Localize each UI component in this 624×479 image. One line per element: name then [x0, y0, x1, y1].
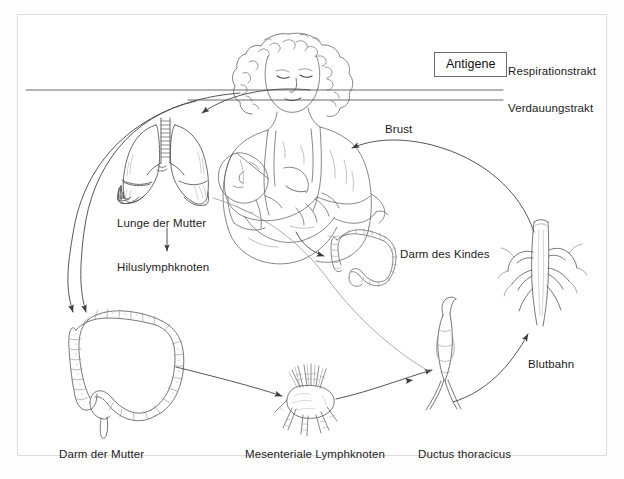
guide-line-lower-right-continued [330, 282, 430, 372]
figure-canvas: Antigene Respirationstrakt Verdauungstra… [0, 0, 624, 479]
arrow-digestive-to-maternal-gut [81, 101, 196, 312]
blood-vessel-illustration [498, 220, 587, 326]
label-darm-der-mutter: Darm der Mutter [59, 449, 144, 461]
label-respirationstrakt: Respirationstrakt [508, 66, 596, 78]
label-lunge-der-mutter: Lunge der Mutter [117, 218, 206, 230]
label-blutbahn: Blutbahn [528, 359, 574, 371]
infant-large-intestine-illustration [331, 229, 397, 286]
arrow-gut-to-mesenteric-node [176, 367, 282, 396]
label-ductus-thoracicus: Ductus thoracicus [418, 449, 511, 461]
arrow-duct-to-bloodstream [453, 334, 528, 402]
label-brust: Brust [385, 124, 412, 136]
label-darm-des-kindes: Darm des Kindes [400, 249, 490, 261]
mother-breastfeeding-baby-figure [218, 33, 388, 264]
label-verdauungstrakt: Verdauungstrakt [508, 103, 593, 115]
label-mesenteriale-lymphknoten: Mesenteriale Lymphknoten [245, 449, 385, 461]
arrow-blood-to-breast [352, 140, 534, 232]
maternal-large-intestine-illustration [69, 309, 184, 438]
thoracic-duct-illustration [426, 297, 461, 410]
arrowhead-midway [405, 378, 413, 384]
arrow-breast-to-infant-gut [296, 232, 324, 256]
arrow-node-to-thoracic-duct [336, 370, 432, 399]
label-hiluslymphknoten: Hiluslymphknoten [117, 262, 209, 274]
antigene-callout-box: Antigene [434, 52, 507, 77]
mesenteric-lymph-node-illustration [275, 364, 337, 436]
